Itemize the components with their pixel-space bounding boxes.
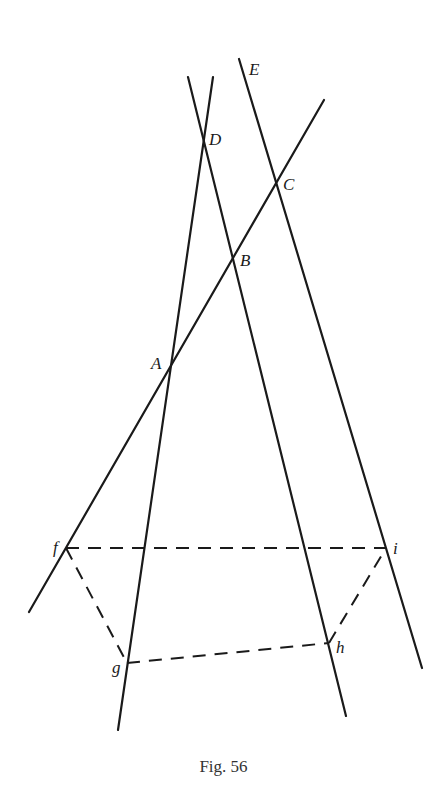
label-h: h (336, 638, 345, 657)
dashed-hi (329, 548, 386, 643)
label-E: E (248, 60, 260, 79)
label-B: B (240, 251, 251, 270)
dashed-fg (66, 548, 127, 663)
label-f: f (53, 538, 60, 557)
line-AD (118, 77, 213, 730)
line-DB (188, 77, 346, 716)
figure-caption: Fig. 56 (0, 757, 447, 777)
label-g: g (112, 658, 121, 677)
dashed-gh (127, 643, 329, 663)
label-C: C (283, 175, 295, 194)
line-ABC (29, 100, 324, 612)
label-A: A (150, 354, 162, 373)
geometry-figure: E D C B A f i h g (0, 0, 447, 793)
label-D: D (208, 130, 222, 149)
line-EC (239, 59, 422, 668)
label-i: i (393, 539, 398, 558)
